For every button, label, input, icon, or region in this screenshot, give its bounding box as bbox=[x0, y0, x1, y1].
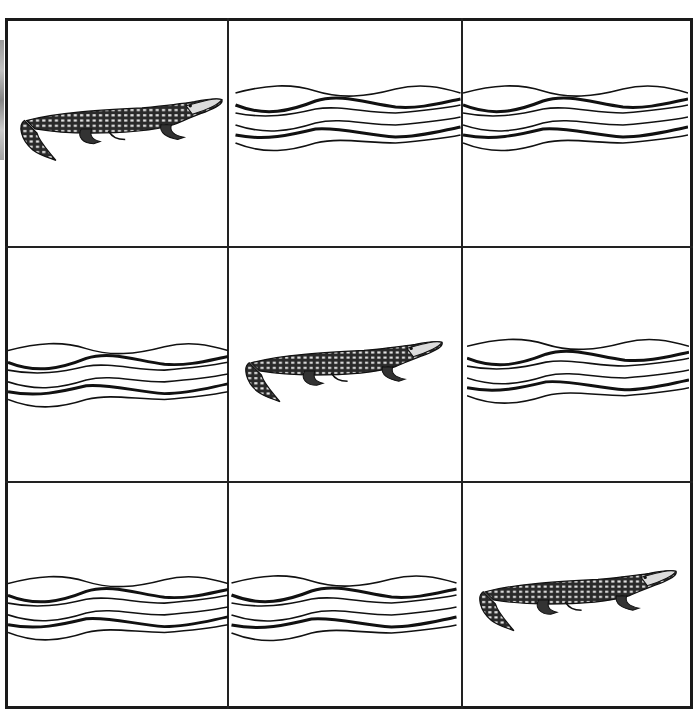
cell-r2c3[interactable]: water bbox=[463, 248, 691, 481]
cell-r1c1[interactable]: crocodile bbox=[8, 21, 227, 246]
water-waves-icon bbox=[463, 83, 688, 155]
cell-r2c1[interactable]: water bbox=[8, 248, 227, 481]
scan-edge-artifact bbox=[0, 40, 4, 160]
cell-r3c1[interactable]: water bbox=[8, 483, 227, 707]
water-waves-icon bbox=[229, 573, 459, 645]
crocodile-icon bbox=[241, 338, 446, 406]
cell-r3c3[interactable]: crocodile bbox=[463, 483, 691, 707]
cell-r1c2[interactable]: water bbox=[229, 21, 461, 246]
cell-r1c3[interactable]: water bbox=[463, 21, 691, 246]
water-waves-icon bbox=[233, 83, 463, 155]
water-waves-icon bbox=[8, 573, 228, 645]
cell-r2c2[interactable]: crocodile bbox=[229, 248, 461, 481]
crocodile-icon bbox=[475, 567, 680, 635]
water-waves-icon bbox=[467, 336, 689, 408]
water-waves-icon bbox=[8, 340, 228, 412]
crocodile-icon bbox=[16, 95, 226, 165]
cell-r3c2[interactable]: water bbox=[229, 483, 461, 707]
